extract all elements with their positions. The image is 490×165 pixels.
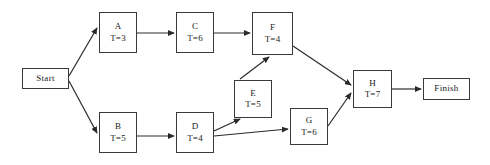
edge-d-to-g: [214, 129, 288, 136]
node-b-duration: T=5: [110, 133, 126, 144]
node-d[interactable]: DT=4: [176, 112, 214, 153]
node-g-duration: T=6: [301, 127, 317, 138]
edge-start-to-a: [69, 28, 97, 76]
node-h[interactable]: HT=7: [353, 70, 392, 108]
node-finish[interactable]: Finish: [423, 78, 470, 100]
node-e-duration: T=5: [245, 99, 261, 110]
edge-start-to-b: [69, 81, 97, 133]
node-g[interactable]: GT=6: [290, 108, 328, 145]
node-a[interactable]: AT=3: [99, 12, 137, 53]
node-start-label: Start: [36, 73, 55, 84]
node-h-duration: T=7: [365, 89, 381, 100]
node-finish-label: Finish: [434, 83, 458, 94]
node-e-id: E: [250, 88, 256, 99]
node-e[interactable]: ET=5: [234, 80, 272, 118]
edge-e-to-f: [240, 57, 269, 79]
node-a-id: A: [115, 21, 122, 32]
node-c[interactable]: CT=6: [176, 12, 214, 53]
node-a-duration: T=3: [110, 33, 126, 44]
node-f[interactable]: FT=4: [252, 12, 293, 55]
network-diagram: Start Finish AT=3CT=6FT=4BT=5DT=4ET=5GT=…: [0, 0, 490, 165]
node-d-id: D: [192, 121, 199, 132]
node-b[interactable]: BT=5: [99, 112, 137, 153]
node-c-duration: T=6: [187, 33, 203, 44]
node-g-id: G: [306, 115, 313, 126]
node-b-id: B: [115, 121, 121, 132]
node-f-duration: T=4: [265, 34, 281, 45]
edge-g-to-h: [328, 93, 351, 126]
node-d-duration: T=4: [187, 133, 203, 144]
edge-d-to-e: [214, 119, 240, 131]
edge-f-to-h: [293, 46, 351, 85]
node-c-id: C: [192, 21, 198, 32]
node-start[interactable]: Start: [22, 68, 69, 89]
node-f-id: F: [270, 22, 275, 33]
node-h-id: H: [369, 78, 376, 89]
